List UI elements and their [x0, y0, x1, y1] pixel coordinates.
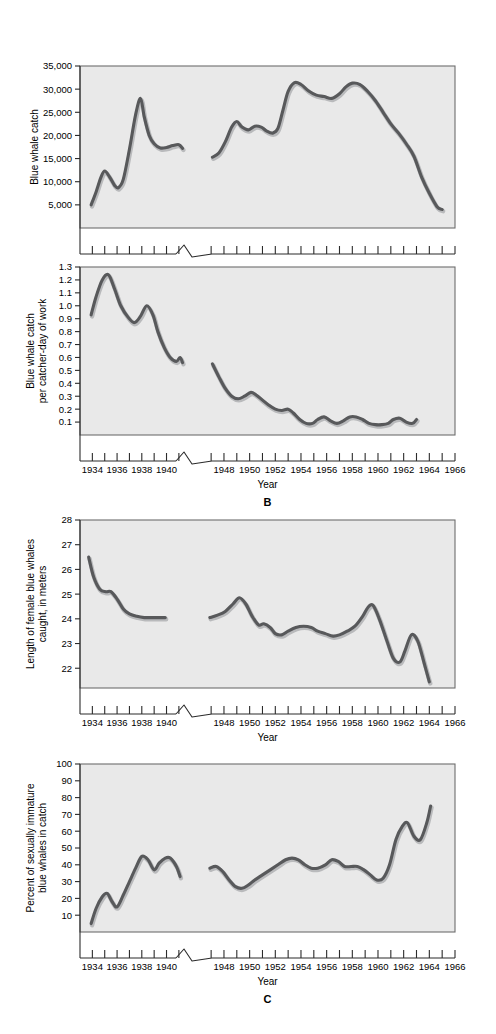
x-tick-label: 1956: [316, 717, 337, 728]
x-tick-label: 1938: [131, 717, 152, 728]
x-axis-title: Year: [257, 976, 278, 987]
y-tick-label: 10,000: [43, 176, 72, 187]
x-tick-label: 1950: [239, 717, 260, 728]
x-tick-label: 1952: [265, 717, 286, 728]
y-tick-label: 15,000: [43, 153, 72, 164]
x-tick-label: 1960: [367, 717, 388, 728]
plot-background: [80, 267, 455, 435]
y-tick-label: 0.4: [59, 378, 72, 389]
axis-break-zigzag: [176, 452, 212, 464]
y-tick-label: 0.6: [59, 352, 72, 363]
y-tick-label: 5,000: [48, 199, 72, 210]
y-tick-label: 60: [61, 826, 72, 837]
x-tick-label: 1952: [265, 464, 286, 475]
y-tick-label: 24: [61, 613, 72, 624]
x-tick-label: 1954: [290, 961, 311, 972]
x-tick-label: 1934: [82, 717, 103, 728]
y-tick-label: 1.0: [59, 300, 72, 311]
y-tick-label: 0.5: [59, 365, 72, 376]
y-tick-label: 25: [61, 589, 72, 600]
x-tick-label: 1962: [393, 717, 414, 728]
x-tick-label: 1936: [107, 464, 128, 475]
x-tick-label: 1966: [444, 464, 465, 475]
chart-svg-b: 0.10.20.30.40.50.60.70.80.91.01.11.21.31…: [0, 255, 496, 508]
x-tick-label: 1958: [342, 961, 363, 972]
chart-panel-d: 1020304050607080901001934193619381940194…: [0, 752, 496, 1034]
x-tick-label: 1948: [213, 717, 234, 728]
y-tick-label: 0.7: [59, 339, 72, 350]
y-tick-label: 40: [61, 859, 72, 870]
x-tick-label: 1948: [213, 961, 234, 972]
y-tick-label: 35,000: [43, 60, 72, 71]
y-tick-label: 0.8: [59, 326, 72, 337]
y-tick-label: 0.3: [59, 391, 72, 402]
y-tick-label: 27: [61, 539, 72, 550]
x-tick-label: 1958: [342, 464, 363, 475]
x-tick-label: 1956: [316, 464, 337, 475]
y-tick-label: 1.3: [59, 261, 72, 272]
axis-break-zigzag: [176, 705, 212, 717]
x-tick-label: 1950: [239, 464, 260, 475]
y-tick-label: 30: [61, 876, 72, 887]
x-tick-label: 1962: [393, 464, 414, 475]
x-tick-label: 1962: [393, 961, 414, 972]
x-tick-label: 1934: [82, 961, 103, 972]
plot-background: [80, 764, 455, 932]
y-axis-title-line: Length of female blue whales: [25, 539, 36, 669]
x-axis-title: Year: [257, 479, 278, 490]
chart-svg-length-of-female-blue-whales: 2223242526272819341936193819401948195019…: [0, 508, 496, 752]
whale-catch-figure: 5,00010,00015,00020,00025,00030,00035,00…: [0, 0, 496, 1034]
panel-letter: C: [264, 993, 272, 1005]
y-tick-label: 1.1: [59, 287, 72, 298]
y-axis-title-line: Blue whale catch: [25, 313, 36, 389]
chart-panel-c: 2223242526272819341936193819401948195019…: [0, 508, 496, 752]
y-tick-label: 80: [61, 792, 72, 803]
x-tick-label: 1956: [316, 961, 337, 972]
y-tick-label: 28: [61, 514, 72, 525]
x-tick-label: 1952: [265, 961, 286, 972]
x-tick-label: 1940: [156, 464, 177, 475]
y-axis-title-line: per catcher-day of work: [37, 298, 48, 403]
x-tick-label: 1960: [367, 961, 388, 972]
y-axis-title-line: caught, in meters: [37, 566, 48, 643]
x-tick-label: 1934: [82, 464, 103, 475]
x-tick-label: 1964: [419, 961, 440, 972]
y-tick-label: 70: [61, 809, 72, 820]
y-tick-label: 20,000: [43, 130, 72, 141]
x-tick-label: 1958: [342, 717, 363, 728]
y-tick-label: 25,000: [43, 107, 72, 118]
x-tick-label: 1950: [239, 961, 260, 972]
x-tick-label: 1940: [156, 961, 177, 972]
chart-svg-c: 1020304050607080901001934193619381940194…: [0, 752, 496, 1034]
chart-svg-a: 5,00010,00015,00020,00025,00030,00035,00…: [0, 0, 496, 258]
chart-panel-a: 5,00010,00015,00020,00025,00030,00035,00…: [0, 0, 496, 258]
y-tick-label: 100: [56, 758, 72, 769]
x-tick-label: 1954: [290, 464, 311, 475]
plot-background: [80, 66, 455, 228]
x-tick-label: 1964: [419, 717, 440, 728]
y-tick-label: 26: [61, 564, 72, 575]
y-tick-label: 20: [61, 893, 72, 904]
y-axis-title-line: Blue whale catch: [29, 109, 40, 185]
x-tick-label: 1936: [107, 961, 128, 972]
y-tick-label: 1.2: [59, 274, 72, 285]
y-axis-title-line: blue whales in catch: [37, 803, 48, 893]
x-tick-label: 1936: [107, 717, 128, 728]
y-tick-label: 22: [61, 663, 72, 674]
y-tick-label: 0.2: [59, 404, 72, 415]
y-axis-title-line: Percent of sexually immature: [25, 783, 36, 912]
chart-panel-b: 0.10.20.30.40.50.60.70.80.91.01.11.21.31…: [0, 255, 496, 508]
x-tick-label: 1940: [156, 717, 177, 728]
x-tick-label: 1954: [290, 717, 311, 728]
x-tick-label: 1938: [131, 961, 152, 972]
x-axis-title: Year: [257, 732, 278, 743]
x-tick-label: 1938: [131, 464, 152, 475]
y-tick-label: 23: [61, 638, 72, 649]
x-tick-label: 1964: [419, 464, 440, 475]
panel-letter: B: [264, 496, 272, 508]
y-tick-label: 10: [61, 910, 72, 921]
x-tick-label: 1966: [444, 717, 465, 728]
x-tick-label: 1966: [444, 961, 465, 972]
x-tick-label: 1960: [367, 464, 388, 475]
y-tick-label: 0.9: [59, 313, 72, 324]
